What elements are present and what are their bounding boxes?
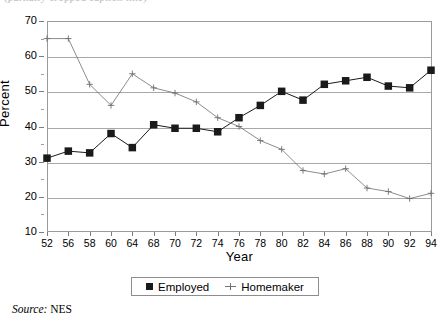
legend-label-homemaker: Homemaker	[241, 281, 304, 293]
chart-legend: Employed Homemaker	[131, 277, 319, 296]
x-tick-mark	[260, 232, 261, 236]
x-tick-mark	[410, 232, 411, 236]
legend-item-homemaker[interactable]: Homemaker	[225, 281, 304, 293]
x-tick-mark	[47, 232, 48, 236]
x-tick-mark	[175, 232, 176, 236]
x-tick-label: 86	[340, 238, 352, 249]
x-tick-label: 82	[297, 238, 309, 249]
data-point-marker	[342, 77, 350, 85]
data-point-marker	[193, 99, 199, 105]
y-tick-label: 20	[25, 191, 37, 202]
x-tick-mark	[90, 232, 91, 236]
data-point-marker	[150, 85, 156, 91]
y-tick-mark	[39, 232, 44, 233]
legend-item-employed[interactable]: Employed	[146, 281, 209, 293]
source-label: Source:	[12, 303, 47, 315]
y-tick-mark	[39, 21, 44, 22]
y-tick-label: 60	[25, 50, 37, 61]
data-point-marker	[171, 125, 179, 133]
data-point-marker	[235, 114, 243, 122]
x-tick-mark	[346, 232, 347, 236]
data-point-marker	[406, 195, 412, 201]
series-layer	[47, 21, 432, 232]
data-point-marker	[321, 81, 329, 89]
data-point-marker	[385, 82, 393, 90]
x-tick-mark	[367, 232, 368, 236]
y-tick-mark-minor	[41, 74, 44, 75]
y-tick-mark	[39, 56, 44, 57]
cropped-caption-text: (partially cropped caption line)	[4, 0, 442, 3]
data-point-marker	[193, 125, 201, 133]
data-point-marker	[172, 90, 178, 96]
y-tick-mark-minor	[41, 109, 44, 110]
legend-label-employed: Employed	[158, 281, 209, 293]
data-point-marker	[43, 154, 51, 162]
x-tick-label: 78	[254, 238, 266, 249]
y-axis-title: Percent	[0, 80, 12, 127]
data-point-marker	[321, 171, 327, 177]
x-tick-mark	[239, 232, 240, 236]
x-tick-mark	[324, 232, 325, 236]
x-tick-mark	[303, 232, 304, 236]
x-tick-mark	[68, 232, 69, 236]
x-tick-mark	[196, 232, 197, 236]
y-tick-mark-minor	[41, 214, 44, 215]
data-point-marker	[385, 188, 391, 194]
data-point-marker	[150, 121, 158, 128]
data-point-marker	[299, 96, 307, 104]
y-tick-mark-minor	[41, 179, 44, 180]
plus-marker-icon	[225, 282, 236, 291]
y-tick-mark-minor	[41, 144, 44, 145]
source-note: Source: NES	[12, 303, 72, 315]
x-tick-label: 80	[276, 238, 288, 249]
x-tick-label: 84	[318, 238, 330, 249]
x-tick-label: 76	[233, 238, 245, 249]
y-tick-mark	[39, 91, 44, 92]
x-tick-mark	[431, 232, 432, 236]
data-point-marker	[236, 123, 242, 129]
x-tick-label: 90	[382, 238, 394, 249]
filled-square-marker-icon	[146, 283, 153, 290]
data-point-marker	[44, 35, 50, 41]
source-value: NES	[50, 303, 72, 315]
x-tick-mark	[388, 232, 389, 236]
data-point-marker	[86, 149, 94, 157]
x-tick-label: 74	[212, 238, 224, 249]
x-tick-label: 68	[148, 238, 160, 249]
data-point-marker	[214, 128, 222, 136]
y-tick-mark-minor	[41, 39, 44, 40]
data-point-marker	[427, 66, 435, 74]
y-tick-mark	[39, 197, 44, 198]
x-tick-label: 94	[425, 238, 437, 249]
x-tick-mark	[218, 232, 219, 236]
y-tick-label: 50	[25, 85, 37, 96]
x-tick-label: 56	[62, 238, 74, 249]
x-tick-label: 92	[404, 238, 416, 249]
y-tick-label: 30	[25, 156, 37, 167]
x-tick-mark	[132, 232, 133, 236]
data-point-marker	[363, 74, 371, 82]
y-tick-label: 70	[25, 15, 37, 26]
data-point-marker	[257, 137, 263, 143]
data-point-marker	[65, 35, 71, 41]
data-point-marker	[278, 88, 286, 96]
y-tick-label: 40	[25, 121, 37, 132]
x-tick-label: 52	[41, 238, 53, 249]
data-point-marker	[406, 84, 414, 92]
x-tick-mark	[154, 232, 155, 236]
x-tick-label: 58	[84, 238, 96, 249]
data-point-marker	[214, 115, 220, 121]
data-point-marker	[129, 144, 137, 152]
x-tick-mark	[111, 232, 112, 236]
x-tick-label: 72	[190, 238, 202, 249]
data-point-marker	[257, 102, 265, 110]
y-tick-mark	[39, 127, 44, 128]
x-tick-mark	[282, 232, 283, 236]
data-point-marker	[129, 71, 135, 77]
data-point-marker	[65, 147, 73, 155]
x-tick-label: 64	[126, 238, 138, 249]
data-point-marker	[428, 190, 434, 196]
y-tick-label: 10	[25, 226, 37, 237]
x-tick-label: 70	[169, 238, 181, 249]
x-axis-title: Year	[47, 249, 432, 264]
